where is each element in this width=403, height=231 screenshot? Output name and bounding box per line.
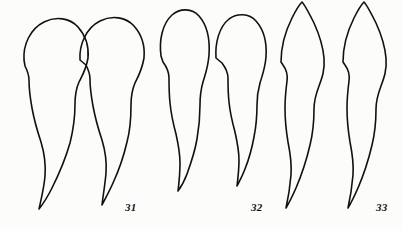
specimen-outline-4 [216,15,266,186]
specimen-outline-2 [80,18,144,205]
specimen-outline-6 [343,2,386,208]
figure-number-33: 33 [376,201,388,213]
specimen-drawings-canvas [0,0,403,231]
figure-number-32: 32 [251,201,263,213]
specimen-outline-5 [281,2,324,208]
specimen-outline-3 [160,10,209,191]
figure-plate: 31 32 33 [0,0,403,231]
figure-number-31: 31 [125,201,137,213]
specimen-outline-1 [24,19,88,209]
